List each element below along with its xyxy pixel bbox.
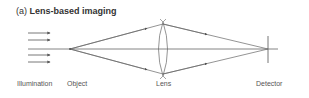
label-illumination: Illumination bbox=[17, 80, 52, 87]
label-object: Object bbox=[67, 80, 87, 87]
object-point bbox=[69, 48, 71, 50]
label-lens: Lens bbox=[156, 80, 171, 87]
label-detector: Detector bbox=[256, 80, 282, 87]
illumination-arrows bbox=[28, 33, 50, 62]
